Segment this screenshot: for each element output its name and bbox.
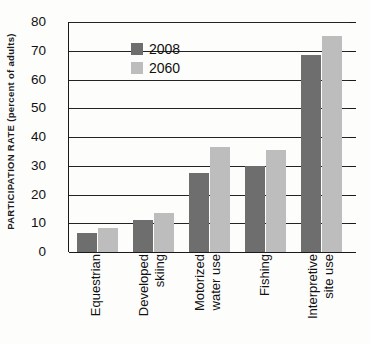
y-axis-tick-label: 60 bbox=[20, 73, 46, 87]
x-axis-tick-label-line: skiing bbox=[153, 254, 167, 287]
x-axis-tick-label-line: Developed bbox=[138, 254, 152, 316]
bar-2060 bbox=[322, 36, 342, 252]
legend-swatch-icon bbox=[131, 43, 143, 55]
x-axis-tick-label: Fishing bbox=[237, 254, 293, 344]
y-axis-tick-label: 70 bbox=[20, 44, 46, 58]
bar-2008 bbox=[77, 233, 97, 252]
axis-tick-mark bbox=[349, 137, 356, 138]
x-axis-tick-label-line: Fishing bbox=[258, 254, 272, 296]
x-axis-tick-label-line: Motorized bbox=[194, 254, 208, 311]
bar-2008 bbox=[133, 220, 153, 252]
bar-2060 bbox=[154, 213, 174, 252]
axis-tick-mark bbox=[349, 252, 356, 253]
axis-tick-mark bbox=[349, 166, 356, 167]
bar-2008 bbox=[189, 173, 209, 252]
y-axis-tick-label: 20 bbox=[20, 188, 46, 202]
bar-2008 bbox=[301, 55, 321, 252]
axis-tick-mark bbox=[349, 108, 356, 109]
bar-2060 bbox=[98, 228, 118, 252]
axis-tick-mark bbox=[349, 80, 356, 81]
y-axis-tick-labels: 01020304050607080 bbox=[20, 22, 46, 252]
chart-legend: 20082060 bbox=[131, 40, 217, 78]
x-axis-tick-label-line: site use bbox=[322, 254, 336, 299]
axis-tick-mark bbox=[349, 51, 356, 52]
y-axis-tick-label: 0 bbox=[20, 245, 46, 259]
legend-item: 2008 bbox=[131, 40, 217, 57]
bar-2008 bbox=[245, 166, 265, 252]
bar-chart-figure: PARTICIPATION RATE (percent of adults) 0… bbox=[0, 0, 370, 344]
axis-tick-mark bbox=[349, 195, 356, 196]
bar-group bbox=[294, 22, 350, 252]
x-axis-tick-label-line: water use bbox=[209, 254, 223, 310]
x-axis-tick-label: Developedskiing bbox=[124, 254, 180, 344]
legend-label: 2008 bbox=[149, 42, 180, 56]
x-axis-tick-label-line: Equestrian bbox=[89, 254, 103, 316]
y-axis-title: PARTICIPATION RATE (percent of adults) bbox=[0, 0, 20, 262]
legend-swatch-icon bbox=[131, 62, 143, 74]
bar-2060 bbox=[210, 147, 230, 252]
y-axis-tick-label: 40 bbox=[20, 130, 46, 144]
y-axis-tick-label: 50 bbox=[20, 102, 46, 116]
bar-group bbox=[69, 22, 125, 252]
axis-tick-mark bbox=[349, 22, 356, 23]
y-axis-title-text: PARTICIPATION RATE (percent of adults) bbox=[5, 33, 16, 229]
x-axis-tick-label: Motorizedwater use bbox=[180, 254, 236, 344]
y-axis-tick-label: 10 bbox=[20, 217, 46, 231]
axis-tick-mark bbox=[349, 223, 356, 224]
x-axis-tick-label-line: Interpretive bbox=[306, 254, 320, 319]
bar-2060 bbox=[266, 150, 286, 252]
legend-item: 2060 bbox=[131, 59, 217, 76]
x-axis-tick-label: Interpretivesite use bbox=[293, 254, 349, 344]
x-axis-tick-label: Equestrian bbox=[68, 254, 124, 344]
x-axis-tick-labels: EquestrianDevelopedskiingMotorizedwater … bbox=[68, 254, 349, 344]
bar-group bbox=[238, 22, 294, 252]
gridline bbox=[69, 252, 350, 253]
legend-label: 2060 bbox=[149, 61, 180, 75]
y-axis-tick-label: 30 bbox=[20, 159, 46, 173]
y-axis-tick-label: 80 bbox=[20, 15, 46, 29]
